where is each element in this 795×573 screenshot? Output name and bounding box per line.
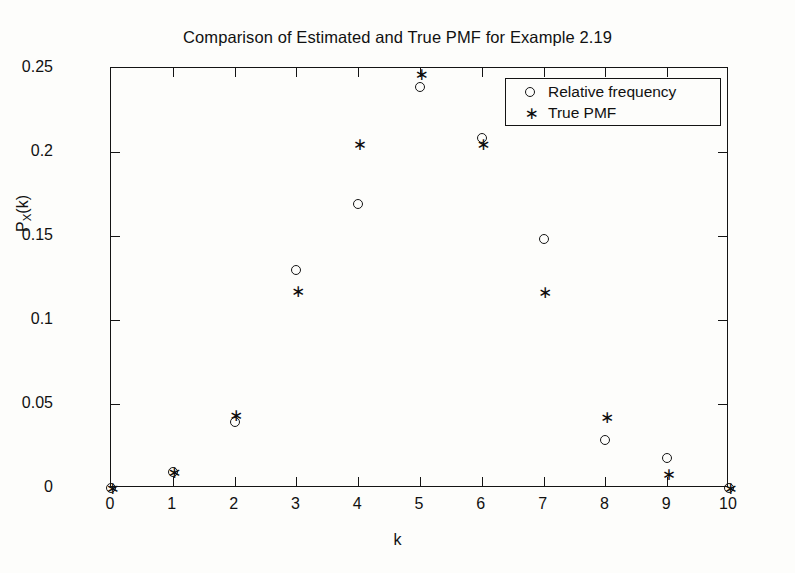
- x-axis-tick: [173, 68, 174, 77]
- y-axis-tick-label: 0.05: [1, 394, 53, 412]
- x-axis-tick: [605, 68, 606, 77]
- y-axis-tick-label: 0.2: [1, 142, 53, 160]
- asterisk-marker: ∗: [662, 468, 673, 479]
- x-axis-tick: [605, 477, 606, 486]
- circle-marker: [662, 453, 672, 463]
- x-axis-tick-label: 6: [461, 495, 501, 513]
- asterisk-marker: ∗: [415, 68, 426, 79]
- x-axis-tick: [482, 68, 483, 77]
- asterisk-marker: ∗: [167, 466, 178, 477]
- x-axis-tick-label: 3: [275, 495, 315, 513]
- y-axis-tick-label: 0.1: [1, 310, 53, 328]
- circle-marker: [600, 435, 610, 445]
- x-axis-tick: [358, 477, 359, 486]
- asterisk-marker: ∗: [353, 139, 364, 150]
- asterisk-marker: ∗: [106, 483, 117, 494]
- y-axis-tick: [111, 152, 120, 153]
- x-axis-tick-label: 1: [152, 495, 192, 513]
- legend-label-true-pmf: True PMF: [548, 104, 616, 122]
- y-axis-tick: [111, 320, 120, 321]
- circle-marker: [353, 199, 363, 209]
- x-axis-tick: [667, 68, 668, 77]
- asterisk-marker: ∗: [476, 139, 487, 150]
- legend-label-relative-frequency: Relative frequency: [548, 83, 676, 101]
- x-axis-tick: [544, 68, 545, 77]
- circle-marker: [415, 82, 425, 92]
- chart-legend: Relative frequency ∗ True PMF: [505, 78, 721, 126]
- y-axis-tick-label: 0: [1, 478, 53, 496]
- y-axis-tick: [718, 404, 727, 405]
- x-axis-tick-label: 2: [214, 495, 254, 513]
- y-axis-tick: [111, 404, 120, 405]
- x-axis-tick: [482, 477, 483, 486]
- x-axis-tick-label: 9: [646, 495, 686, 513]
- x-axis-tick: [296, 68, 297, 77]
- x-axis-label: k: [0, 531, 795, 549]
- y-axis-tick: [718, 152, 727, 153]
- x-axis-tick: [544, 477, 545, 486]
- y-axis-tick: [718, 320, 727, 321]
- circle-marker: [539, 234, 549, 244]
- x-axis-tick: [235, 477, 236, 486]
- x-axis-tick-label: 0: [90, 495, 130, 513]
- x-axis-tick: [358, 68, 359, 77]
- legend-swatch-relative-frequency: [506, 81, 548, 103]
- figure-canvas: Comparison of Estimated and True PMF for…: [0, 0, 795, 573]
- y-axis-label-suffix: (k): [14, 195, 31, 214]
- circle-marker: [291, 265, 301, 275]
- x-axis-tick-label: 5: [399, 495, 439, 513]
- legend-swatch-true-pmf: ∗: [506, 102, 548, 124]
- asterisk-marker: ∗: [229, 409, 240, 420]
- asterisk-marker: ∗: [525, 108, 536, 119]
- circle-marker: [525, 87, 535, 97]
- asterisk-marker: ∗: [724, 483, 735, 494]
- x-axis-tick: [296, 477, 297, 486]
- y-axis-tick-label: 0.15: [1, 226, 53, 244]
- legend-item-true-pmf: ∗ True PMF: [506, 102, 720, 124]
- y-axis-tick: [111, 236, 120, 237]
- x-axis-tick-label: 7: [523, 495, 563, 513]
- x-axis-tick: [235, 68, 236, 77]
- plot-area: ∗∗∗∗∗∗∗∗∗∗∗: [110, 67, 728, 487]
- y-axis-label-subscript: X: [21, 214, 33, 222]
- x-axis-tick: [420, 477, 421, 486]
- y-axis-tick: [718, 236, 727, 237]
- asterisk-marker: ∗: [600, 411, 611, 422]
- asterisk-marker: ∗: [538, 287, 549, 298]
- legend-item-relative-frequency: Relative frequency: [506, 81, 720, 103]
- x-axis-tick-label: 4: [337, 495, 377, 513]
- x-axis-tick-label: 8: [584, 495, 624, 513]
- asterisk-marker: ∗: [291, 286, 302, 297]
- y-axis-tick-label: 0.25: [1, 58, 53, 76]
- chart-title: Comparison of Estimated and True PMF for…: [0, 28, 795, 47]
- x-axis-tick-label: 10: [708, 495, 748, 513]
